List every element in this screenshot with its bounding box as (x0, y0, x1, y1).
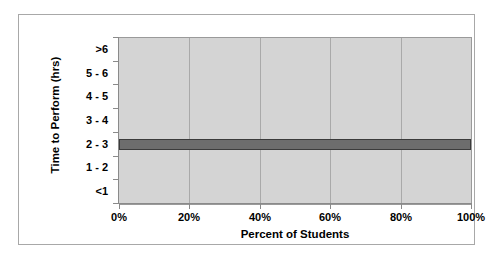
x-axis-tick-label: 20% (159, 211, 219, 223)
x-axis-title: Percent of Students (119, 228, 471, 240)
x-axis-line (118, 203, 472, 204)
y-axis-title: Time to Perform (hrs) (49, 30, 61, 200)
x-axis-tick-mark (189, 204, 190, 209)
x-axis-tick-label: 100% (441, 211, 495, 223)
gridline-vertical (401, 38, 402, 204)
x-axis-tick-mark (401, 204, 402, 209)
bar[interactable] (119, 139, 471, 150)
y-axis-tick-mark (113, 37, 118, 38)
gridline-vertical (330, 38, 331, 204)
chart-figure: Time to Perform (hrs) >65 - 64 - 53 - 42… (0, 0, 495, 259)
y-axis-tick-label: <1 (63, 179, 113, 203)
y-axis-tick-label: 2 - 3 (63, 132, 113, 156)
y-axis-tick-mark (113, 179, 118, 180)
y-axis-tick-mark (113, 84, 118, 85)
y-axis-tick-label: 3 - 4 (63, 108, 113, 132)
x-axis-tick-label: 40% (230, 211, 290, 223)
x-axis-tick-mark (119, 204, 120, 209)
x-axis-tick-label: 80% (371, 211, 431, 223)
plot-area (119, 37, 472, 205)
y-axis-tick-labels: >65 - 64 - 53 - 42 - 31 - 2<1 (63, 37, 113, 203)
y-axis-tick-mark (113, 203, 118, 204)
y-axis-tick-mark (113, 108, 118, 109)
gridline-vertical (189, 38, 190, 204)
figure-frame: Time to Perform (hrs) >65 - 64 - 53 - 42… (18, 14, 475, 245)
y-axis-tick-mark (113, 156, 118, 157)
x-axis-tick-mark (330, 204, 331, 209)
y-axis-tick-label: >6 (63, 37, 113, 61)
x-axis-tick-mark (471, 204, 472, 209)
y-axis-tick-mark (113, 132, 118, 133)
bar-row (119, 133, 471, 157)
x-axis-tick-mark (260, 204, 261, 209)
y-axis-tick-mark (113, 61, 118, 62)
y-axis-tick-label: 1 - 2 (63, 156, 113, 180)
gridline-vertical (260, 38, 261, 204)
y-axis-tick-label: 5 - 6 (63, 61, 113, 85)
x-axis-tick-label: 0% (89, 211, 149, 223)
y-axis-tick-label: 4 - 5 (63, 84, 113, 108)
x-axis-tick-label: 60% (300, 211, 360, 223)
